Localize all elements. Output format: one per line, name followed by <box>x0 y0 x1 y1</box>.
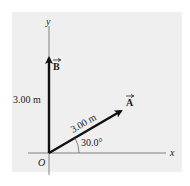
origin-label: O <box>38 157 45 168</box>
vector-b-magnitude-label: 3.00 m <box>13 94 41 105</box>
angle-arc <box>75 138 79 153</box>
vector-a-magnitude-label: 3.00 m <box>69 111 99 135</box>
vector-a-label: A <box>126 97 134 108</box>
x-axis-label: x <box>169 147 175 158</box>
y-axis-label: y <box>45 16 51 27</box>
angle-label: 30.0° <box>81 137 103 148</box>
vector-b-label: B <box>53 61 60 72</box>
vector-diagram: y x O B 3.00 m A 3.00 m 30.0° <box>0 0 190 186</box>
